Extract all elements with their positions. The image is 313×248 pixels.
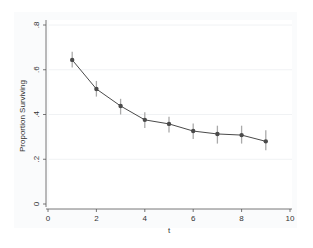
x-tick-label: 6 xyxy=(191,214,196,223)
data-point xyxy=(70,58,74,62)
data-point xyxy=(264,139,268,143)
y-tick-label: .2 xyxy=(32,155,41,162)
x-axis-title: t xyxy=(168,226,171,235)
survival-chart: 0.2.4.6.80246810 t Proportion Surviving xyxy=(0,0,313,248)
x-tick-label: 4 xyxy=(143,214,148,223)
data-point xyxy=(191,129,195,133)
x-tick-label: 10 xyxy=(286,214,295,223)
x-tick-label: 8 xyxy=(239,214,244,223)
data-point xyxy=(118,104,122,108)
y-tick-label: .8 xyxy=(32,21,41,28)
data-point xyxy=(94,87,98,91)
data-point xyxy=(143,118,147,122)
y-tick-label: 0 xyxy=(32,201,41,206)
x-tick-label: 2 xyxy=(94,214,99,223)
gridlines xyxy=(49,20,292,209)
data-point xyxy=(167,122,171,126)
y-tick-label: .6 xyxy=(32,66,41,73)
data-point xyxy=(239,133,243,137)
y-tick-label: .4 xyxy=(32,111,41,118)
data-point xyxy=(215,132,219,136)
x-tick-label: 0 xyxy=(46,214,51,223)
y-axis-title: Proportion Surviving xyxy=(18,80,27,152)
